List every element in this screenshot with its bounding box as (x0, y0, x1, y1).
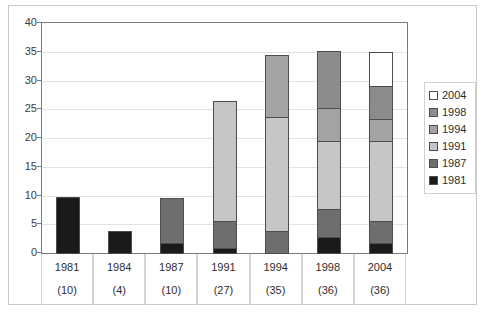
x-axis-count-label: (36) (303, 284, 353, 296)
legend-swatch-icon (429, 91, 438, 100)
bar-1987[interactable] (160, 198, 184, 254)
legend-swatch-icon (429, 159, 438, 168)
legend-swatch-icon (429, 125, 438, 134)
bar-segment-1998-1981[interactable] (317, 237, 341, 254)
x-axis-year-label: 1984 (94, 261, 144, 273)
y-axis-tick-label: 5 (7, 218, 37, 229)
bar-segment-1994-1991[interactable] (265, 117, 289, 232)
y-axis-tick (37, 108, 41, 109)
bar-segment-2004-1998[interactable] (369, 86, 393, 121)
x-axis-count-label: (36) (355, 284, 405, 296)
x-axis-year-label: 2004 (355, 261, 405, 273)
x-axis-category-1981: 1981(10) (41, 254, 93, 305)
y-axis-tick (37, 22, 41, 23)
y-axis-tick-label: 35 (7, 46, 37, 57)
y-axis-tick-label: 10 (7, 190, 37, 201)
y-axis-tick (37, 252, 41, 253)
x-axis-category-2004: 2004(36) (354, 254, 406, 305)
x-axis-category-1987: 1987(10) (145, 254, 197, 305)
legend-label: 1981 (442, 175, 466, 186)
bar-segment-1991-1987[interactable] (213, 221, 237, 250)
gridline (42, 81, 407, 82)
x-axis-count-label: (10) (42, 284, 92, 296)
y-axis-tick-label: 20 (7, 132, 37, 143)
y-axis-tick (37, 80, 41, 81)
stacked-bar-chart: 0510152025303540 1981(10)1984(4)1987(10)… (0, 0, 485, 321)
legend-item-1981[interactable]: 1981 (429, 172, 472, 189)
legend-item-1998[interactable]: 1998 (429, 104, 472, 121)
legend-label: 1987 (442, 158, 466, 169)
legend-item-2004[interactable]: 2004 (429, 87, 472, 104)
x-axis-year-label: 1994 (251, 261, 301, 273)
plot-area (41, 22, 408, 254)
legend-label: 1991 (442, 141, 466, 152)
gridline (42, 52, 407, 53)
legend-item-1987[interactable]: 1987 (429, 155, 472, 172)
bar-segment-1998-1987[interactable] (317, 209, 341, 238)
x-axis-left-spacer (8, 254, 41, 305)
y-axis-tick-label: 40 (7, 17, 37, 28)
bar-segment-2004-1994[interactable] (369, 119, 393, 142)
bar-segment-2004-1981[interactable] (369, 243, 393, 255)
bar-segment-1998-1998[interactable] (317, 51, 341, 109)
chart-legend: 200419981994199119871981 (424, 82, 476, 194)
bar-segment-2004-2004[interactable] (369, 52, 393, 87)
x-axis-year-label: 1998 (303, 261, 353, 273)
x-axis-category-1991: 1991(27) (197, 254, 249, 305)
legend-label: 1994 (442, 124, 466, 135)
x-axis-year-label: 1981 (42, 261, 92, 273)
legend-label: 1998 (442, 107, 466, 118)
bar-1998[interactable] (317, 51, 341, 253)
bar-segment-1994-1994[interactable] (265, 55, 289, 118)
legend-item-1994[interactable]: 1994 (429, 121, 472, 138)
x-axis-count-label: (4) (94, 284, 144, 296)
y-axis-tick (37, 195, 41, 196)
y-axis: 0510152025303540 (4, 22, 37, 254)
bar-segment-1987-1987[interactable] (160, 198, 184, 244)
x-axis-labels: 1981(10)1984(4)1987(10)1991(27)1994(35)1… (8, 254, 477, 305)
legend-label: 2004 (442, 90, 466, 101)
x-axis-category-1984: 1984(4) (93, 254, 145, 305)
bar-1984[interactable] (108, 231, 132, 253)
y-axis-tick (37, 51, 41, 52)
bar-segment-1987-1981[interactable] (160, 243, 184, 255)
y-axis-tick-label: 15 (7, 161, 37, 172)
bar-segment-2004-1991[interactable] (369, 141, 393, 222)
x-axis-year-label: 1987 (146, 261, 196, 273)
x-axis-category-1994: 1994(35) (250, 254, 302, 305)
bar-segment-1984-1981[interactable] (108, 231, 132, 254)
bar-1991[interactable] (213, 101, 237, 253)
x-axis-count-label: (27) (198, 284, 248, 296)
bar-segment-2004-1987[interactable] (369, 221, 393, 244)
bar-segment-1998-1991[interactable] (317, 141, 341, 210)
x-axis-category-1998: 1998(36) (302, 254, 354, 305)
bar-2004[interactable] (369, 52, 393, 253)
y-axis-tick (37, 137, 41, 138)
bar-segment-1994-1987[interactable] (265, 231, 289, 254)
y-axis-tick (37, 223, 41, 224)
bar-segment-1998-1994[interactable] (317, 108, 341, 143)
y-axis-tick (37, 166, 41, 167)
y-axis-tick-label: 25 (7, 103, 37, 114)
bar-1994[interactable] (265, 55, 289, 253)
bar-1981[interactable] (56, 197, 80, 254)
bar-segment-1991-1991[interactable] (213, 101, 237, 222)
x-axis-count-label: (35) (251, 284, 301, 296)
x-axis-count-label: (10) (146, 284, 196, 296)
legend-swatch-icon (429, 108, 438, 117)
legend-item-1991[interactable]: 1991 (429, 138, 472, 155)
y-axis-tick-label: 30 (7, 75, 37, 86)
x-axis-year-label: 1991 (198, 261, 248, 273)
x-axis-right-spacer (408, 254, 477, 305)
bar-segment-1981-1981[interactable] (56, 197, 80, 255)
legend-swatch-icon (429, 142, 438, 151)
legend-swatch-icon (429, 176, 438, 185)
